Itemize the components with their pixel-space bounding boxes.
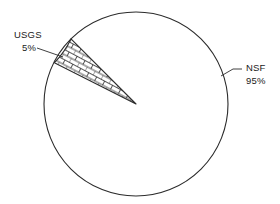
usgs-slice-fill — [54, 39, 136, 104]
nsf-label-name: NSF — [246, 62, 266, 73]
usgs-label-percent: 5% — [22, 42, 36, 53]
pie-chart-svg: USGS 5% NSF 95% — [0, 0, 280, 204]
usgs-label-name: USGS — [14, 29, 42, 40]
usgs-leader-line — [37, 48, 63, 57]
nsf-leader-line — [221, 69, 242, 76]
nsf-label-percent: 95% — [246, 75, 266, 86]
usgs-slice — [54, 39, 136, 104]
pie-chart-figure: USGS 5% NSF 95% — [0, 0, 280, 204]
